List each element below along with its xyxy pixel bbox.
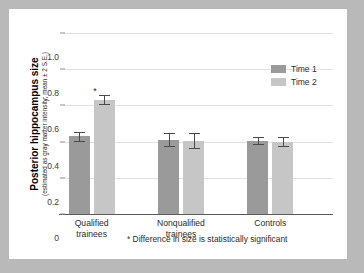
chart-legend: Time 1Time 2 xyxy=(271,63,317,89)
chart-footnote: * Difference in size is statistically si… xyxy=(127,234,287,244)
x-axis-label-controls: Controls xyxy=(220,218,320,229)
error-bar-cap-lower xyxy=(278,146,289,147)
plot-area: * xyxy=(65,33,333,215)
chart-figure-panel: Posterior hippocampus size (estimated as… xyxy=(9,9,347,259)
bar-time-2-qualified-trainees[interactable] xyxy=(94,100,115,214)
error-bar-cap-upper xyxy=(189,133,200,134)
error-bar-cap-lower xyxy=(189,148,200,149)
y-tick-mark xyxy=(60,177,65,178)
error-bar-cap-lower xyxy=(164,146,175,147)
legend-item-time-2[interactable]: Time 2 xyxy=(271,76,317,87)
x-label-line: Qualified xyxy=(42,218,142,229)
legend-swatch xyxy=(271,65,286,73)
error-bar-cap-lower xyxy=(253,144,264,145)
y-tick-mark xyxy=(60,105,65,106)
x-axis-baseline xyxy=(59,214,333,215)
y-tick-mark xyxy=(60,214,65,215)
significance-asterisk: * xyxy=(93,87,97,96)
error-bar-line xyxy=(283,137,284,146)
error-bar-line xyxy=(79,132,80,141)
bar-time-1-nonqualified-trainees[interactable] xyxy=(158,140,179,214)
y-tick-mark xyxy=(60,69,65,70)
bar-time-1-controls[interactable] xyxy=(247,141,268,214)
legend-swatch xyxy=(271,78,286,86)
error-bar-line xyxy=(194,133,195,147)
bar-time-2-controls[interactable] xyxy=(272,142,293,214)
error-bar-cap-upper xyxy=(74,132,85,133)
legend-label: Time 2 xyxy=(291,77,317,87)
error-bar-line xyxy=(258,137,259,144)
error-bar-cap-upper xyxy=(253,137,264,138)
gridline xyxy=(65,33,333,34)
y-tick-label: 0.8 xyxy=(33,88,59,98)
x-label-line: Controls xyxy=(220,218,320,229)
error-bar-cap-upper xyxy=(99,95,110,96)
y-tick-mark xyxy=(60,33,65,34)
error-bar-line xyxy=(104,95,105,104)
error-bar-cap-upper xyxy=(278,137,289,138)
error-bar-cap-lower xyxy=(99,104,110,105)
error-bar-cap-lower xyxy=(74,141,85,142)
y-tick-label: 0.6 xyxy=(33,124,59,134)
x-label-line: Nonqualified xyxy=(131,218,231,229)
y-tick-label: 0.4 xyxy=(33,161,59,171)
bar-time-2-nonqualified-trainees[interactable] xyxy=(183,141,204,214)
legend-item-time-1[interactable]: Time 1 xyxy=(271,63,317,74)
y-tick-mark xyxy=(60,141,65,142)
y-tick-label: 0.2 xyxy=(33,197,59,207)
error-bar-cap-upper xyxy=(164,133,175,134)
bar-time-1-qualified-trainees[interactable] xyxy=(69,136,90,214)
legend-label: Time 1 xyxy=(291,64,317,74)
y-axis-tick-labels: 1.00.80.60.40.20 xyxy=(31,33,59,215)
error-bar-line xyxy=(169,133,170,146)
y-tick-label: 1.0 xyxy=(33,52,59,62)
